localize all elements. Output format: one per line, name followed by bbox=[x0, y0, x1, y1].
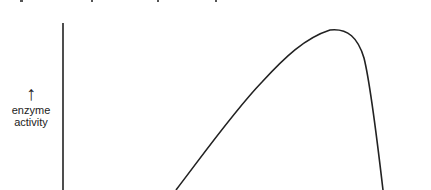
chart-plot bbox=[0, 0, 431, 190]
activity-curve bbox=[176, 30, 383, 190]
cropped-title-descenders bbox=[20, 0, 217, 2]
